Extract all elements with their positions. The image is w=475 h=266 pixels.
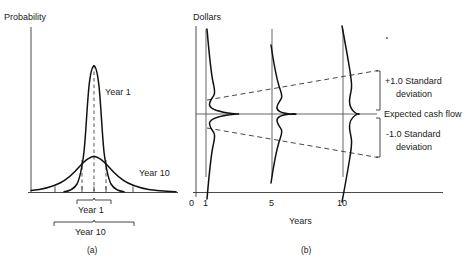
panel-a-y-axis-label: Probability: [4, 12, 47, 22]
panel-b-annotation-plus-1sd: +1.0 Standard: [385, 76, 442, 86]
panel-a-label-year1: Year 1: [105, 87, 131, 97]
panel-b-xtick-1: 1: [203, 198, 208, 208]
panel-b-annotation-plus-1sd-line2: deviation: [396, 89, 432, 99]
panel-b-annotation-minus-1sd: -1.0 Standard: [386, 129, 441, 139]
panel-b: Dollars 0 1 5 10 Years +1.0 Standard dev…: [189, 12, 462, 255]
panel-a-bracket-year1: [77, 198, 111, 204]
panel-a-bracket-label-year1: Year 1: [78, 205, 104, 215]
panel-b-annotation-minus-1sd-line2: deviation: [396, 142, 432, 152]
panel-a-label-year10: Year 10: [139, 168, 170, 178]
panel-a: Probability Year 1 Year 10 Year 1 Year 1…: [4, 12, 178, 255]
panel-a-bracket-label-year10: Year 10: [75, 227, 106, 237]
panel-a-bracket-year10: [54, 220, 134, 226]
panel-b-stray-dot: [386, 37, 388, 39]
panel-a-caption: (a): [87, 245, 98, 255]
risk-over-time-figure: Probability Year 1 Year 10 Year 1 Year 1…: [0, 0, 475, 266]
panel-b-plus-1sd-line: [207, 71, 378, 101]
panel-b-minus-1sd-line: [207, 128, 378, 158]
panel-b-bracket-lower: [376, 118, 380, 157]
panel-b-x-axis-label: Years: [289, 216, 312, 226]
panel-b-bracket-upper: [376, 71, 380, 110]
panel-b-annotation-expected-cash-flow: Expected cash flow: [384, 109, 462, 119]
panel-b-xtick-0: 0: [189, 198, 194, 208]
panel-b-xtick-10: 10: [337, 198, 347, 208]
panel-b-y-axis-label: Dollars: [193, 12, 222, 22]
panel-b-caption: (b): [301, 245, 312, 255]
panel-b-xtick-5: 5: [269, 198, 274, 208]
